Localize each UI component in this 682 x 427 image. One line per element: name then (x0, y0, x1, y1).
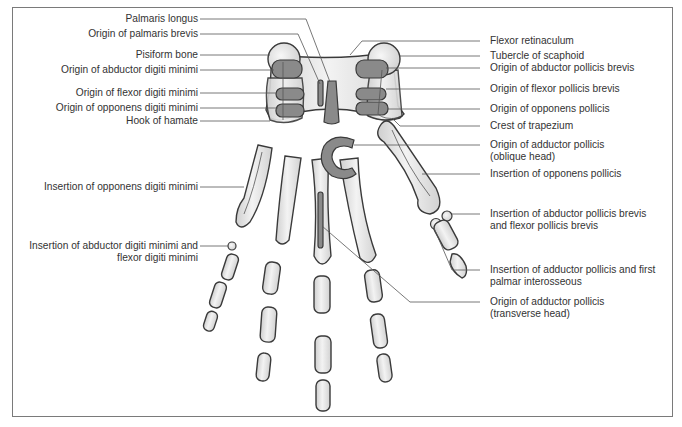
label-origin-abductor-pollicis-brevis: Origin of abductor pollicis brevis (490, 62, 634, 74)
label-pisiform-bone: Pisiform bone (136, 49, 198, 61)
label-insertion-opponens-pollicis: Insertion of opponens pollicis (490, 168, 621, 180)
label-origin-flexor-pollicis-brevis: Origin of flexor pollicis brevis (490, 83, 620, 95)
phalanges (202, 211, 466, 411)
label-origin-adductor-pollicis-oblique: Origin of adductor pollicis (oblique hea… (490, 139, 604, 163)
label-insertion-abductor-flexor-digiti-minimi: Insertion of abductor digiti minimi and … (29, 240, 198, 264)
label-origin-abductor-digiti-minimi: Origin of abductor digiti minimi (61, 64, 198, 76)
label-origin-flexor-digiti-minimi: Origin of flexor digiti minimi (76, 87, 198, 99)
label-insertion-adductor-pollicis-first-palmar: Insertion of adductor pollicis and first… (490, 264, 655, 288)
label-line-2: (oblique head) (490, 151, 604, 163)
label-line-2: and flexor pollicis brevis (490, 220, 646, 232)
label-line-2: palmar interosseous (490, 276, 655, 288)
label-insertion-opponens-digiti-minimi: Insertion of opponens digiti minimi (44, 181, 198, 193)
label-origin-adductor-pollicis-transverse: Origin of adductor pollicis (transverse … (490, 296, 604, 320)
label-line-1: Origin of adductor pollicis (490, 139, 604, 151)
label-insertion-abductor-flexor-pollicis-brevis: Insertion of abductor pollicis brevis an… (490, 208, 646, 232)
label-line-2: flexor digiti minimi (29, 252, 198, 264)
label-line-1: Insertion of abductor pollicis brevis (490, 208, 646, 220)
label-tubercle-scaphoid: Tubercle of scaphoid (490, 50, 584, 62)
label-line-1: Origin of adductor pollicis (490, 296, 604, 308)
label-crest-trapezium: Crest of trapezium (490, 120, 573, 132)
label-line-2: (transverse head) (490, 308, 604, 320)
label-origin-palmaris-brevis: Origin of palmaris brevis (88, 28, 198, 40)
metacarpals (236, 121, 440, 264)
label-flexor-retinaculum: Flexor retinaculum (490, 35, 574, 47)
label-hook-of-hamate: Hook of hamate (126, 115, 198, 127)
label-origin-opponens-digiti-minimi: Origin of opponens digiti minimi (56, 102, 198, 114)
label-line-1: Insertion of abductor digiti minimi and (29, 240, 198, 252)
carpal-region (266, 43, 404, 124)
label-line-1: Insertion of adductor pollicis and first (490, 264, 655, 276)
label-palmaris-longus: Palmaris longus (126, 13, 198, 25)
label-origin-opponens-pollicis: Origin of opponens pollicis (490, 103, 610, 115)
